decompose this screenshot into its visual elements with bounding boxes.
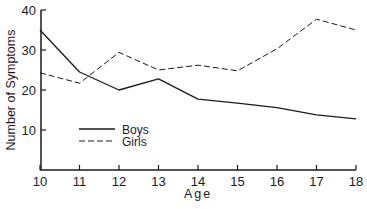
series-line-boys <box>40 30 356 119</box>
series-line-girls <box>40 19 356 83</box>
x-tick-label: 17 <box>309 174 323 189</box>
x-axis: 101112131415161718 <box>33 165 363 189</box>
x-tick-label: 16 <box>270 174 284 189</box>
x-axis-title: Age <box>184 187 212 201</box>
legend-label-girls: Girls <box>122 135 147 149</box>
series-lines <box>40 19 356 119</box>
line-chart: 10203040 101112131415161718 Boys Girls A… <box>0 0 367 209</box>
y-tick-label: 20 <box>22 83 36 98</box>
x-tick-label: 10 <box>33 174 47 189</box>
legend: Boys Girls <box>79 123 149 149</box>
x-tick-label: 13 <box>151 174 165 189</box>
y-axis-title: Number of Symptoms <box>4 30 18 151</box>
x-tick-label: 12 <box>112 174 126 189</box>
x-tick-label: 11 <box>73 174 87 189</box>
y-axis: 10203040 <box>22 3 46 171</box>
x-tick-label: 18 <box>349 174 363 189</box>
x-tick-label: 15 <box>230 174 244 189</box>
y-tick-label: 40 <box>22 3 36 18</box>
y-tick-label: 10 <box>22 123 36 138</box>
y-tick-label: 30 <box>22 43 36 58</box>
